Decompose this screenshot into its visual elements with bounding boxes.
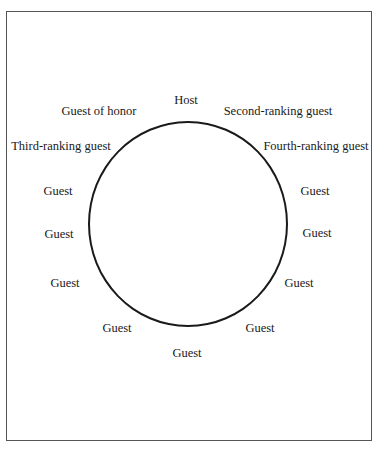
seat-guest: Guest [50,276,79,290]
seat-guest: Guest [300,184,329,198]
seat-guest: Guest [302,226,331,240]
seat-guest: Guest [102,321,131,335]
round-table [88,121,288,327]
seat-fourth-ranking-guest: Fourth-ranking guest [263,139,368,153]
seat-guest: Guest [284,276,313,290]
seat-third-ranking-guest: Third-ranking guest [11,139,111,153]
seat-guest: Guest [245,321,274,335]
seat-guest: Guest [172,346,201,360]
seat-guest: Guest [43,184,72,198]
seat-guest: Guest [44,227,73,241]
seat-host: Host [174,93,198,107]
seat-second-ranking-guest: Second-ranking guest [224,104,333,118]
seat-guest-of-honor: Guest of honor [62,104,137,118]
